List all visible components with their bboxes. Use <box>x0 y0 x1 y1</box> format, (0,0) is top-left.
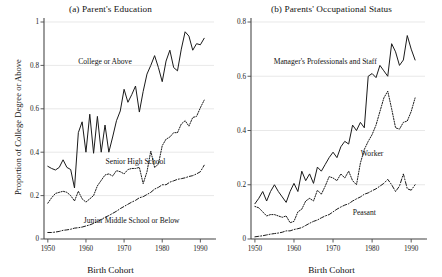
svg-text:0.2: 0.2 <box>30 192 39 200</box>
series-annotation: Senior High School <box>106 157 166 166</box>
svg-text:0.8: 0.8 <box>30 62 39 70</box>
panel-a-ylabel: Proportion of College Degree or Above <box>13 37 23 217</box>
panel-a-xlabel: Birth Cohort <box>0 265 221 275</box>
svg-text:0.2: 0.2 <box>237 181 246 189</box>
chart-panel-a: (a) Parent's Education 00.20.40.60.81195… <box>0 0 221 277</box>
series-annotation: Peasant <box>353 208 377 217</box>
svg-text:0.4: 0.4 <box>237 127 246 135</box>
svg-text:1950: 1950 <box>41 245 56 253</box>
series-annotation: Junior Middle School or Below <box>84 216 180 225</box>
figure-container: (a) Parent's Education 00.20.40.60.81195… <box>0 0 442 277</box>
svg-text:1980: 1980 <box>155 245 170 253</box>
series-annotation: Manager's Professionals and Staff <box>274 57 378 66</box>
svg-text:0.4: 0.4 <box>30 149 39 157</box>
svg-text:1990: 1990 <box>404 245 419 253</box>
svg-text:0: 0 <box>242 235 246 243</box>
svg-text:1980: 1980 <box>365 245 380 253</box>
svg-text:1960: 1960 <box>287 245 302 253</box>
panel-b-xlabel: Birth Cohort <box>221 265 442 275</box>
svg-text:0.6: 0.6 <box>237 73 246 81</box>
series-annotation: Worker <box>361 149 384 158</box>
chart-panel-b: (b) Parents' Occupational Status 00.20.4… <box>221 0 442 277</box>
series-line <box>255 91 415 223</box>
series-line <box>255 174 415 237</box>
svg-text:0: 0 <box>35 235 39 243</box>
svg-text:1990: 1990 <box>193 245 208 253</box>
svg-text:1: 1 <box>35 18 39 26</box>
series-annotation: College or Above <box>78 57 132 66</box>
svg-text:1970: 1970 <box>117 245 132 253</box>
svg-text:0.6: 0.6 <box>30 105 39 113</box>
series-line <box>48 100 204 203</box>
svg-text:1970: 1970 <box>326 245 341 253</box>
svg-text:1960: 1960 <box>79 245 94 253</box>
panel-b-plot: 00.20.40.60.819501960197019801990Manager… <box>221 0 442 277</box>
panel-a-plot: 00.20.40.60.8119501960197019801990Colleg… <box>0 0 221 277</box>
svg-text:1950: 1950 <box>248 245 263 253</box>
svg-text:0.8: 0.8 <box>237 18 246 26</box>
